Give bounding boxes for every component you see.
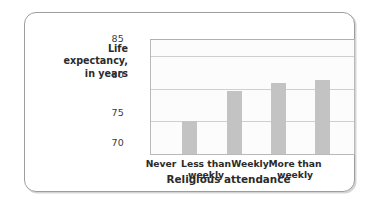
plot-area [150,39,355,155]
y-tick-label-85: 85 [102,34,124,44]
y-tick-label-75: 75 [102,108,124,118]
y-axis-title-line-2: expectancy, [43,55,128,67]
bar-more-than-weekly [315,80,330,154]
y-tick-label-80: 80 [102,70,124,80]
gridline-85 [151,56,354,57]
figure-container: Life expectancy, in years 85 80 75 70 Ne… [0,0,381,208]
bar-weekly [271,83,286,154]
plot-inner [151,40,354,154]
y-axis-title-line-1: Life [43,43,128,55]
chart-card: Life expectancy, in years 85 80 75 70 Ne… [24,12,355,192]
x-tick-more-line-1: More than [266,158,324,169]
bar-less-than-weekly [227,91,242,154]
x-axis-title: Religious attendance [126,173,331,185]
bar-never [182,121,197,154]
y-tick-label-70: 70 [102,138,124,148]
